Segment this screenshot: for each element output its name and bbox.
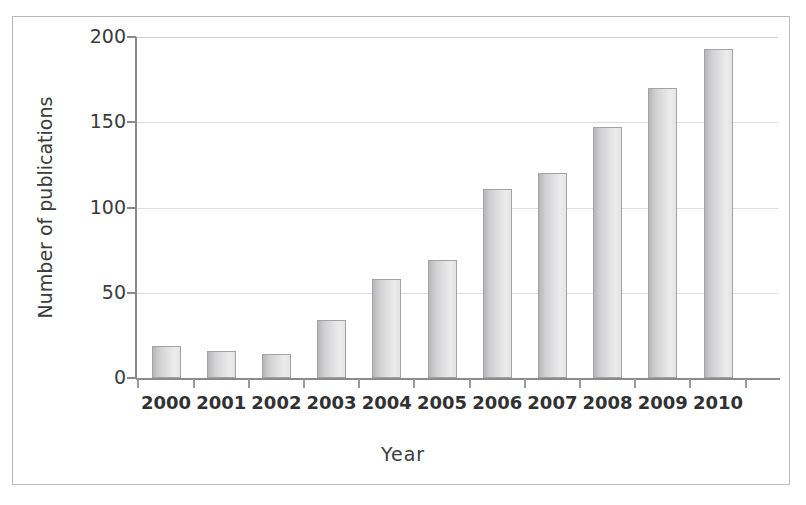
y-axis-tick — [127, 292, 136, 294]
bar — [207, 351, 236, 378]
x-axis-tick — [689, 379, 691, 388]
y-axis-tick — [127, 207, 136, 209]
x-axis-tick — [413, 379, 415, 388]
y-axis-tick — [127, 36, 136, 38]
plot-area — [136, 37, 778, 378]
bar — [593, 127, 622, 378]
bar — [372, 279, 401, 378]
y-axis-tick-label: 200 — [8, 25, 126, 47]
y-axis-tick-label: 100 — [8, 196, 126, 218]
x-axis-tick — [579, 379, 581, 388]
x-axis-title: Year — [0, 443, 806, 465]
bar — [428, 260, 457, 378]
gridline — [136, 293, 778, 294]
x-axis-tick — [303, 379, 305, 388]
y-axis-tick-label: 150 — [8, 110, 126, 132]
x-axis-tick — [137, 379, 139, 388]
gridline — [136, 208, 778, 209]
x-axis-tick — [358, 379, 360, 388]
y-axis-tick-label: 50 — [8, 281, 126, 303]
y-axis-tick — [127, 377, 136, 379]
bar — [317, 320, 346, 378]
gridline — [136, 37, 778, 38]
bar — [648, 88, 677, 378]
bar — [538, 173, 567, 378]
bar — [704, 49, 733, 378]
bar-chart-figure: Number of publications Year 050100150200… — [0, 0, 806, 505]
bar — [483, 189, 512, 378]
x-axis-tick — [469, 379, 471, 388]
x-axis-tick — [193, 379, 195, 388]
y-axis-tick — [127, 121, 136, 123]
x-axis-tick — [248, 379, 250, 388]
x-axis-tick — [524, 379, 526, 388]
bar — [262, 354, 291, 378]
bar — [152, 346, 181, 378]
x-axis-tick — [634, 379, 636, 388]
x-axis-line — [136, 378, 780, 380]
x-axis-tick — [745, 379, 747, 388]
gridline — [136, 122, 778, 123]
y-axis-tick-label: 0 — [8, 366, 126, 388]
x-axis-tick-label: 2010 — [678, 392, 758, 413]
